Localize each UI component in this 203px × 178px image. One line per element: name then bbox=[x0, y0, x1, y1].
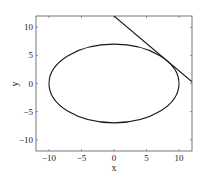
x-axis-label: x bbox=[112, 162, 117, 173]
x-tick-label: 10 bbox=[175, 153, 185, 163]
plot-area bbox=[36, 16, 192, 151]
y-tick-label: 10 bbox=[24, 22, 34, 32]
y-tick-label: 5 bbox=[29, 50, 34, 60]
y-tick-label: −5 bbox=[23, 107, 33, 117]
y-tick-label: 0 bbox=[29, 79, 34, 89]
chart: −10−50510−10−50510 x y bbox=[0, 0, 203, 178]
y-tick-label: −10 bbox=[19, 135, 34, 145]
x-tick-label: 5 bbox=[144, 153, 149, 163]
y-axis-label: y bbox=[9, 82, 20, 87]
x-tick-label: −5 bbox=[77, 153, 87, 163]
x-tick-label: −10 bbox=[42, 153, 57, 163]
